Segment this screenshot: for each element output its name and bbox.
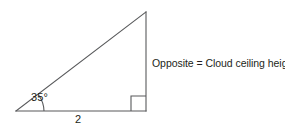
angle-label-35-degrees: 35° bbox=[31, 92, 48, 103]
figure-canvas: 35° 2 Opposite = Cloud ceiling height bbox=[0, 0, 285, 130]
right-angle-marker-icon bbox=[131, 96, 146, 111]
base-length-label: 2 bbox=[75, 114, 81, 125]
opposite-side-label: Opposite = Cloud ceiling height bbox=[152, 58, 285, 69]
